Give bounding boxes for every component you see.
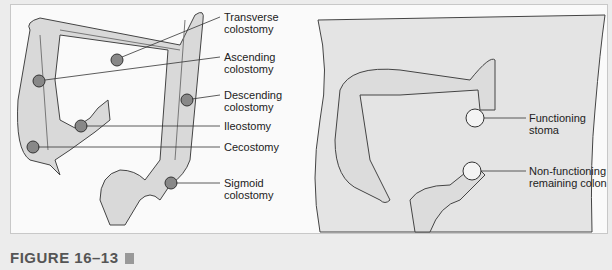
label-nonfunctioning-colon: Non-functioningremaining colon <box>529 165 607 189</box>
label-ileostomy: Ileostomy <box>224 120 271 132</box>
caption-square-icon <box>125 253 134 264</box>
label-functioning-stoma: Functioningstoma <box>529 112 586 136</box>
descending-stoma-icon <box>181 94 193 106</box>
figure-caption: FIGURE 16–13 <box>10 249 134 266</box>
cecostomy-stoma-icon <box>27 141 39 153</box>
transverse-stoma-icon <box>111 54 123 66</box>
label-ascending-colostomy: Ascendingcolostomy <box>224 51 275 75</box>
ascending-stoma-icon <box>33 75 45 87</box>
label-descending-colostomy: Descendingcolostomy <box>224 89 282 113</box>
sigmoid-stoma-icon <box>165 177 177 189</box>
ileostomy-stoma-icon <box>75 120 87 132</box>
nonfunctioning-stoma-icon <box>463 162 481 180</box>
label-transverse-colostomy: Transversecolostomy <box>224 11 279 35</box>
colon-diagram-left <box>18 12 204 225</box>
colon-illustrations <box>0 0 612 270</box>
label-sigmoid-colostomy: Sigmoidcolostomy <box>224 177 274 201</box>
label-cecostomy: Cecostomy <box>224 141 279 153</box>
functioning-stoma-icon <box>466 109 484 127</box>
